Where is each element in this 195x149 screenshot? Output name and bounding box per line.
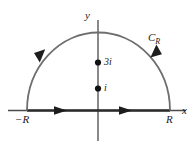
arc-arrowhead-right xyxy=(150,45,162,58)
y-axis-label: y xyxy=(85,10,90,21)
right-endpoint-label-R: R xyxy=(166,114,173,125)
left-endpoint-label-negative-R: −R xyxy=(15,114,29,125)
pole-point-i xyxy=(95,85,101,91)
contour-label-subscript: R xyxy=(155,37,160,46)
x-axis-label: x xyxy=(182,105,187,116)
contour-plot-svg xyxy=(0,0,195,149)
pole-label-i: i xyxy=(104,83,107,93)
real-axis-arrowhead-left xyxy=(54,106,67,114)
contour-diagram-figure: y x −R R 3i i CR xyxy=(0,0,195,149)
pole-label-3i: 3i xyxy=(104,57,112,67)
contour-label-c-r: CR xyxy=(148,32,160,46)
real-axis-arrowhead-right xyxy=(119,106,132,114)
pole-point-3i xyxy=(95,59,101,65)
